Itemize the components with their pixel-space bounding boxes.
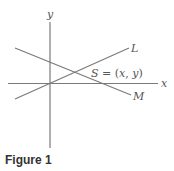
x-axis-label: x: [161, 77, 168, 90]
coordinate-diagram: y x L M S = (x, y): [0, 0, 174, 171]
intersection-comma: ,: [125, 67, 132, 80]
figure-caption: Figure 1: [5, 153, 52, 167]
intersection-eq: = (: [99, 67, 120, 80]
intersection-close: ): [139, 67, 143, 80]
y-axis-label: y: [46, 8, 54, 21]
intersection-label: S = (x, y): [91, 67, 143, 80]
line-l-label: L: [130, 42, 138, 55]
line-m-label: M: [132, 90, 145, 103]
